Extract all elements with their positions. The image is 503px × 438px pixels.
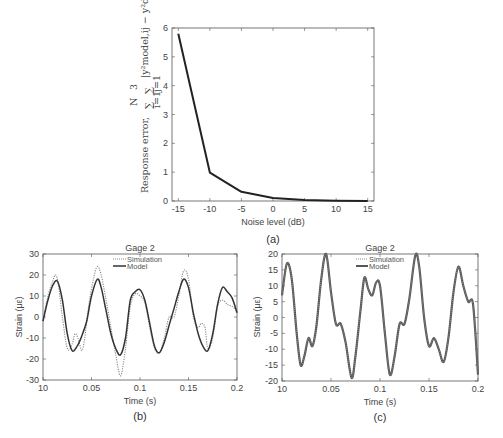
plot-a-frame [172,28,374,201]
plot-c-frame [282,254,478,381]
figure-canvas: 0123456 -15-10-5051015 Noise level (dB) … [0,0,503,438]
y-axis-label: Strain (με) [14,296,24,337]
y-tick-label: 20 [29,270,39,280]
x-axis-label: Noise level (dB) [241,217,305,227]
x-tick-label: 10 [38,383,48,393]
y-tick-label: 0 [163,196,168,206]
x-tick-label: 0.05 [83,383,101,393]
panel-a-noise-error-chart: 0123456 -15-10-5051015 Noise level (dB) … [128,0,374,245]
y-tick-label: 1 [163,167,168,177]
x-axis-label: Time (s) [124,396,157,406]
svg-text:Response error,: Response error, [139,117,150,193]
y-tick-label: -5 [270,328,278,338]
svg-text:|y²model,ij − y²data,ij|: |y²model,ij − y²data,ij| [139,0,151,78]
x-tick-label: 0.1 [134,383,147,393]
y-tick-label: 15 [268,265,278,275]
y-ticks: 0123456 [163,23,374,206]
y-tick-label: 0 [273,313,278,323]
caption-b: (b) [133,410,146,422]
x-tick-label: 15 [363,204,373,214]
legend-model-label: Model [127,262,148,271]
x-ticks: 100.050.10.150.2 [38,254,243,393]
x-tick-label: 0.15 [180,383,198,393]
x-tick-label: 10 [331,204,341,214]
y-tick-label: 10 [268,281,278,291]
panel-c-strain-chart: -20-15-10-505101520 100.050.10.150.2 Gag… [252,243,484,423]
svg-text:j=1: j=1 [151,75,162,93]
x-tick-label: 0 [270,204,275,214]
y-tick-label: 30 [29,249,39,259]
y-tick-label: 20 [268,249,278,259]
x-tick-label: 5 [302,204,307,214]
simulation-line [282,254,478,378]
y-tick-label: 10 [29,291,39,301]
svg-text:3: 3 [128,84,139,90]
y-tick-label: 2 [163,138,168,148]
y-tick-label: 3 [163,110,168,120]
x-tick-label: -10 [203,204,216,214]
x-tick-label: -15 [172,204,185,214]
y-tick-label: 5 [273,297,278,307]
y-tick-label: 6 [163,23,168,33]
chart-title: Gage 2 [365,243,395,253]
x-tick-label: 0.1 [374,384,387,394]
caption-c: (c) [374,411,387,423]
legend: Simulation Model [356,255,404,271]
x-tick-label: 0.2 [472,384,485,394]
y-tick-label: 4 [163,81,168,91]
chart-title: Gage 2 [125,243,155,253]
x-ticks: 100.050.10.150.2 [277,254,484,394]
model-line [282,254,478,378]
x-ticks: -15-10-5051015 [172,28,373,214]
y-tick-label: -10 [265,344,278,354]
x-tick-label: 10 [277,384,287,394]
x-tick-label: 0.15 [420,384,438,394]
svg-text:N: N [128,98,139,106]
x-axis-label: Time (s) [364,397,397,407]
y-tick-label: -20 [26,354,39,364]
x-tick-label: 0.2 [231,383,244,393]
caption-a: (a) [266,233,279,245]
panel-b-strain-chart: -30-20-100102030 100.050.10.150.2 Gage 2… [14,243,243,422]
y-tick-label: 0 [34,312,39,322]
x-tick-label: -5 [237,204,245,214]
y-axis-label: Strain (με) [252,296,262,337]
response-error-line [178,34,367,201]
x-tick-label: 0.05 [322,384,340,394]
legend-model-label: Model [369,262,390,271]
y-tick-label: -15 [265,360,278,370]
plot-b-frame [43,254,237,380]
y-tick-label: 5 [163,52,168,62]
y-tick-label: -10 [26,333,39,343]
y-axis-label: Response error, ∑ N i=1 ∑ 3 j=1 |y²model… [128,0,162,193]
legend: Simulation Model [113,255,162,271]
simulation-line [43,267,237,376]
